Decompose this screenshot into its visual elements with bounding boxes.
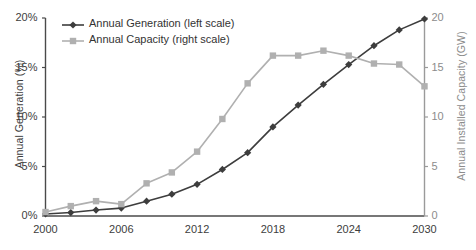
y-axis-right-tick-label: 10 xyxy=(432,110,466,122)
y-axis-left-tick-label: 20% xyxy=(4,11,38,23)
y-axis-right-tick-label: 20 xyxy=(432,11,466,23)
data-point-marker xyxy=(219,116,225,122)
data-point-marker xyxy=(244,80,250,86)
x-axis-tick-label: 2018 xyxy=(248,223,298,235)
x-axis-tick-label: 2024 xyxy=(324,223,374,235)
data-point-marker xyxy=(346,52,352,58)
series-generation xyxy=(42,15,428,217)
y-axis-left-tick-label: 5% xyxy=(4,160,38,172)
legend-item-generation[interactable] xyxy=(62,21,84,28)
series-line xyxy=(46,19,425,214)
data-point-marker xyxy=(118,201,124,207)
data-point-marker xyxy=(194,181,201,188)
data-point-marker xyxy=(93,198,99,204)
data-point-marker xyxy=(270,52,276,58)
y-axis-right-tick-label: 15 xyxy=(432,61,466,73)
y-axis-left-tick-label: 0% xyxy=(4,209,38,221)
data-point-marker xyxy=(143,198,150,205)
y-axis-right-tick-label: 5 xyxy=(432,160,466,172)
data-point-marker xyxy=(421,15,428,22)
x-axis-tick-label: 2000 xyxy=(21,223,71,235)
x-axis-tick-label: 2012 xyxy=(172,223,222,235)
x-axis-tick-label: 2030 xyxy=(400,223,450,235)
data-point-marker xyxy=(68,203,74,209)
data-point-marker xyxy=(92,206,99,213)
y-axis-right-tick-label: 0 xyxy=(432,209,466,221)
data-point-marker xyxy=(42,209,48,215)
x-axis-tick-label: 2006 xyxy=(96,223,146,235)
data-point-marker xyxy=(371,60,377,66)
data-point-marker xyxy=(396,61,402,67)
y-axis-left-tick-label: 10% xyxy=(4,110,38,122)
chart-container: Annual Generation (%) Annual Installed C… xyxy=(0,0,476,250)
data-point-marker xyxy=(67,209,74,216)
data-point-marker xyxy=(169,169,175,175)
y-axis-left-tick-label: 15% xyxy=(4,61,38,73)
data-point-marker xyxy=(70,38,76,44)
data-point-marker xyxy=(194,148,200,154)
data-point-marker xyxy=(69,21,76,28)
data-point-marker xyxy=(168,191,175,198)
legend-item-capacity[interactable] xyxy=(62,38,84,44)
legend-label: Annual Generation (left scale) xyxy=(89,17,235,29)
data-point-marker xyxy=(320,47,326,53)
series-line xyxy=(46,51,425,212)
data-point-marker xyxy=(295,52,301,58)
legend-label: Annual Capacity (right scale) xyxy=(89,33,230,45)
data-point-marker xyxy=(143,180,149,186)
data-point-marker xyxy=(421,83,427,89)
series-capacity xyxy=(42,47,427,215)
chart-plot-area xyxy=(0,0,476,250)
